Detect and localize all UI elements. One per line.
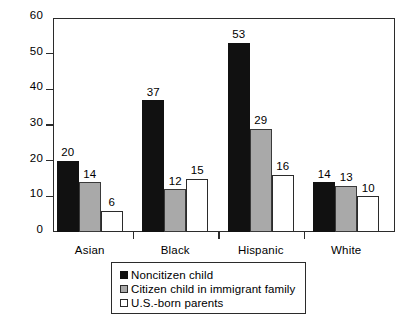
legend-item[interactable]: Noncitizen child: [120, 268, 305, 282]
bar-value-label: 13: [340, 172, 353, 184]
bar-chart-figure: 0102030405060 20146371215532916141310 As…: [0, 0, 416, 336]
y-tick-mark: [46, 89, 53, 91]
bar[interactable]: 6: [101, 211, 123, 232]
x-axis-separator-tick: [304, 232, 306, 239]
y-tick-mark: [46, 53, 53, 55]
bar-group: 20146: [57, 18, 123, 232]
y-tick-label: 20: [30, 153, 43, 165]
bar-value-label: 12: [169, 176, 182, 188]
bar-value-label: 29: [254, 115, 267, 127]
bar-value-label: 14: [318, 169, 331, 181]
bar[interactable]: 16: [272, 175, 294, 232]
x-axis-category-label: Black: [161, 244, 190, 256]
bars-layer: 20146371215532916141310: [53, 18, 395, 232]
y-tick-mark: [46, 160, 53, 162]
x-axis-category-label: Asian: [75, 244, 105, 256]
y-tick-label: 0: [36, 224, 43, 236]
x-axis-category-label: Hispanic: [238, 244, 284, 256]
y-tick-label: 40: [30, 81, 43, 93]
x-axis-separator-tick: [133, 232, 135, 239]
legend-item-label: Citizen child in immigrant family: [131, 283, 295, 295]
bar-value-label: 37: [147, 87, 160, 99]
bar-group: 371215: [142, 18, 208, 232]
bar[interactable]: 29: [250, 129, 272, 232]
bar-value-label: 6: [108, 197, 115, 209]
bar[interactable]: 13: [335, 186, 357, 232]
x-axis: AsianBlackHispanicWhite: [53, 232, 395, 260]
y-axis: 0102030405060: [0, 18, 53, 232]
legend-item[interactable]: U.S.-born parents: [120, 296, 305, 310]
legend-item-label: Noncitizen child: [131, 269, 213, 281]
y-tick-mark: [46, 196, 53, 198]
x-axis-category-label: White: [331, 244, 361, 256]
bar[interactable]: 20: [57, 161, 79, 232]
white-square-icon: [120, 299, 128, 307]
bar[interactable]: 14: [79, 182, 101, 232]
bar-value-label: 10: [362, 183, 375, 195]
bar-group: 141310: [313, 18, 379, 232]
bar[interactable]: 10: [357, 196, 379, 232]
gray-square-icon: [120, 285, 128, 293]
bar[interactable]: 53: [228, 43, 250, 232]
y-tick-label: 60: [30, 10, 43, 22]
bar[interactable]: 15: [186, 179, 208, 233]
black-square-icon: [120, 271, 128, 279]
bar-value-label: 15: [191, 165, 204, 177]
y-tick-label: 10: [30, 188, 43, 200]
x-axis-separator-tick: [218, 232, 220, 239]
bar-group: 532916: [228, 18, 294, 232]
y-tick-label: 50: [30, 46, 43, 58]
bar-value-label: 20: [61, 147, 74, 159]
bar[interactable]: 12: [164, 189, 186, 232]
legend-item[interactable]: Citizen child in immigrant family: [120, 282, 305, 296]
legend-item-label: U.S.-born parents: [131, 297, 223, 309]
bar[interactable]: 14: [313, 182, 335, 232]
chart-legend: Noncitizen childCitizen child in immigra…: [111, 262, 306, 314]
bar-value-label: 53: [232, 29, 245, 41]
y-tick-label: 30: [30, 117, 43, 129]
bar-value-label: 16: [276, 161, 289, 173]
bar[interactable]: 37: [142, 100, 164, 232]
bar-value-label: 14: [83, 169, 96, 181]
y-tick-mark: [46, 124, 53, 126]
